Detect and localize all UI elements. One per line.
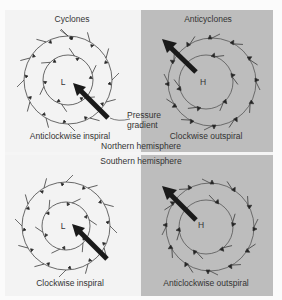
sh-anticyclone-center-label: H: [198, 220, 204, 230]
nh-cyclone-pressure-arrow: [73, 83, 108, 118]
southern-hemisphere-label: Southern hemisphere: [100, 156, 181, 166]
nh-anticyclone-caption: Clockwise outspiral: [170, 131, 243, 141]
nh-cyclone-caption: Anticlockwise inspiral: [30, 131, 110, 141]
sh-anticyclone-caption: Anticlockwise outspiral: [163, 278, 249, 288]
sh-cyclone-center-label: L: [61, 221, 66, 231]
nh-anticyclone-isobars: [168, 38, 256, 126]
pressure-gradient-label: Pressure gradient: [127, 110, 161, 130]
northern-hemisphere-label: Northern hemisphere: [101, 141, 181, 151]
nh-cyclone-center-label: L: [61, 77, 66, 87]
nh-anticyclone-center-label: H: [200, 77, 206, 87]
nh-anticyclone-pressure-arrow: [162, 39, 196, 72]
sh-cyclone-wind-barbs: [15, 175, 117, 277]
sh-anticyclone-pressure-arrow: [162, 186, 196, 220]
column-title-anticyclones: Anticyclones: [184, 14, 232, 24]
column-title-cyclones: Cyclones: [55, 14, 90, 24]
sh-cyclone-isobars: [22, 182, 110, 270]
nh-anticyclone-wind-barbs: [164, 34, 260, 130]
pressure-gradient-line1: Pressure: [127, 110, 161, 120]
sh-cyclone-caption: Clockwise inspiral: [36, 278, 104, 288]
pressure-gradient-line2: gradient: [127, 120, 161, 130]
sh-anticyclone-wind-barbs: [162, 179, 258, 275]
